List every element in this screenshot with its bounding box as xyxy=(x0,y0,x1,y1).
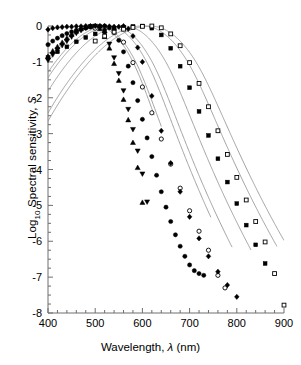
data-point xyxy=(46,27,51,32)
data-point xyxy=(60,34,64,38)
data-point xyxy=(122,27,126,31)
series-filled-square xyxy=(46,24,267,265)
y-axis-label: Log10 Spectral sensitivity, S xyxy=(26,48,41,288)
data-point xyxy=(103,29,107,33)
x-axis-tick-label: 800 xyxy=(228,317,246,329)
data-point xyxy=(126,107,131,112)
x-axis-tick-label: 600 xyxy=(133,317,151,329)
data-point xyxy=(202,273,206,277)
data-point xyxy=(254,243,258,247)
data-point xyxy=(117,38,121,42)
data-point xyxy=(207,105,211,109)
x-axis-label: Wavelength, λ (nm) xyxy=(0,341,301,353)
data-point xyxy=(65,24,70,29)
data-point xyxy=(121,97,126,102)
data-point xyxy=(112,56,117,61)
data-point xyxy=(126,64,130,68)
x-axis-tick-label: 700 xyxy=(180,317,198,329)
x-axis-label-suffix: (nm) xyxy=(173,341,200,353)
data-point xyxy=(126,117,131,122)
data-point xyxy=(145,200,150,205)
data-point xyxy=(140,172,145,177)
figure-container: 4005006007008009000-1-2-3-4-5-6-7-8 Log1… xyxy=(0,0,301,365)
data-point xyxy=(244,223,248,227)
data-point xyxy=(225,180,229,184)
y-axis-tick-label: -8 xyxy=(32,307,42,319)
series-up-triangle xyxy=(45,23,144,204)
data-point xyxy=(69,35,74,40)
data-point xyxy=(116,24,121,29)
data-point xyxy=(263,240,267,244)
tick-label-layer: 4005006007008009000-1-2-3-4-5-6-7-8 xyxy=(32,20,293,329)
data-point xyxy=(188,61,192,65)
data-point xyxy=(140,200,145,205)
data-point xyxy=(121,50,125,54)
data-point xyxy=(145,136,149,140)
data-point xyxy=(131,60,135,64)
data-point xyxy=(130,140,135,145)
data-point xyxy=(135,165,140,170)
data-point xyxy=(74,24,79,29)
data-point xyxy=(69,24,74,29)
data-point xyxy=(121,40,125,44)
data-point xyxy=(116,71,121,76)
data-point xyxy=(178,44,182,48)
data-point xyxy=(235,175,239,179)
data-point xyxy=(65,31,69,35)
data-point xyxy=(197,229,201,233)
data-point xyxy=(164,205,168,209)
data-point xyxy=(103,34,107,38)
data-point xyxy=(159,190,163,194)
data-point xyxy=(131,26,135,30)
data-point xyxy=(234,294,239,299)
data-point xyxy=(197,236,202,241)
data-point xyxy=(159,137,163,141)
data-point xyxy=(159,26,163,30)
data-point xyxy=(273,272,277,276)
data-point xyxy=(187,214,192,219)
series-filled-circle xyxy=(46,24,206,278)
data-point xyxy=(254,220,258,224)
data-point xyxy=(192,269,196,273)
y-axis-tick-label: 0 xyxy=(36,20,42,32)
data-point xyxy=(136,99,140,103)
data-point xyxy=(150,154,154,158)
data-point xyxy=(159,128,164,133)
data-point xyxy=(140,85,144,89)
data-point xyxy=(169,219,173,223)
data-point xyxy=(150,93,155,98)
data-point xyxy=(141,24,145,28)
data-point xyxy=(140,59,145,64)
data-point xyxy=(56,50,60,54)
series-diamond xyxy=(46,23,239,299)
data-point xyxy=(263,262,267,266)
data-point xyxy=(55,25,60,30)
spectral-sensitivity-chart: 4005006007008009000-1-2-3-4-5-6-7-8 xyxy=(0,0,301,365)
data-point xyxy=(116,78,121,83)
data-point xyxy=(46,43,50,47)
data-point xyxy=(140,117,144,121)
data-point xyxy=(216,129,220,133)
curve-layer xyxy=(48,26,284,250)
curve-diamond xyxy=(48,26,251,250)
data-point xyxy=(135,149,140,154)
data-point xyxy=(188,209,192,213)
data-point xyxy=(173,233,177,237)
data-point xyxy=(70,30,74,34)
data-point xyxy=(169,46,173,50)
marker-layer xyxy=(45,23,285,307)
data-point xyxy=(154,173,158,177)
data-point xyxy=(244,198,248,202)
data-point xyxy=(183,254,187,258)
data-point xyxy=(169,32,173,36)
data-point xyxy=(112,30,116,34)
data-point xyxy=(51,39,55,43)
data-point xyxy=(65,45,69,49)
data-point xyxy=(150,111,154,115)
data-point xyxy=(93,39,97,43)
data-point xyxy=(225,153,229,157)
y-axis-label-symbol: S xyxy=(26,96,38,104)
y-axis-label-middle: Spectral sensitivity, xyxy=(26,104,38,210)
data-point xyxy=(235,202,239,206)
x-axis-label-prefix: Wavelength, xyxy=(101,341,168,353)
